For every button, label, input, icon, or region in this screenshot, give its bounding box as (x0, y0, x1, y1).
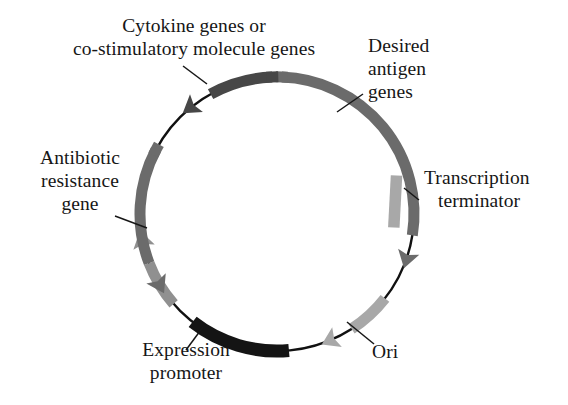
label-antigen-line1: Desired (368, 34, 488, 57)
label-antigen-line3: genes (368, 80, 488, 103)
segment-startcap-cytokine-genes (266, 71, 278, 82)
label-cytokine-genes: Cytokine genes or co-stimulatory molecul… (44, 14, 344, 60)
feature-cytokine-genes (176, 71, 278, 122)
feature-transcription-terminator (317, 175, 402, 354)
label-desired-antigen-genes: Desired antigen genes (368, 34, 488, 103)
label-promoter-line2: promoter (112, 361, 260, 384)
arrowhead-desired-antigen-genes (393, 249, 419, 271)
label-cytokine-line2: co-stimulatory molecule genes (44, 37, 344, 60)
label-expression-promoter: Expression promoter (112, 338, 260, 384)
label-antibiotic-line2: resistance (14, 169, 146, 192)
label-terminator-line1: Transcription (424, 166, 568, 189)
segment-body-transcription-terminator (388, 175, 402, 228)
label-antigen-line2: antigen (368, 57, 488, 80)
segment-arc-transcription-terminator (352, 298, 385, 329)
feature-expression-promoter (129, 228, 173, 304)
leader-cytokine-icon (183, 66, 207, 84)
segment-arc-cytokine-genes (211, 77, 273, 94)
label-transcription-terminator: Transcription terminator (424, 166, 568, 212)
label-antibiotic-line3: gene (14, 192, 146, 215)
label-antibiotic-line1: Antibiotic (14, 146, 146, 169)
label-promoter-line1: Expression (112, 338, 260, 361)
label-antibiotic-resistance-gene: Antibiotic resistance gene (14, 146, 146, 215)
label-cytokine-line1: Cytokine genes or (44, 14, 344, 37)
label-ori-line1: Ori (372, 340, 432, 363)
label-terminator-line2: terminator (424, 189, 568, 212)
arrowhead-transcription-terminator (317, 327, 342, 354)
plasmid-diagram: Cytokine genes or co-stimulatory molecul… (0, 0, 568, 405)
label-ori: Ori (372, 340, 432, 363)
